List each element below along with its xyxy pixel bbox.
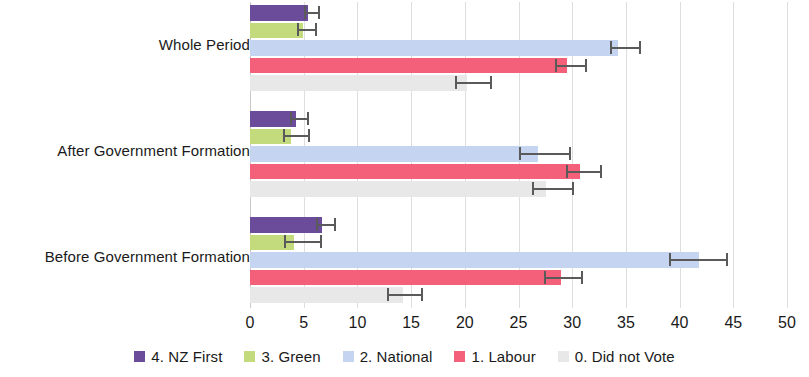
bar xyxy=(250,40,618,56)
x-tick-label: 40 xyxy=(671,314,689,332)
error-bar-line xyxy=(555,65,587,67)
error-bar-cap-high xyxy=(600,165,602,178)
error-bar-cap-low xyxy=(555,59,557,72)
legend-swatch-icon xyxy=(244,351,255,362)
bar xyxy=(250,164,580,180)
legend-item[interactable]: 3. Green xyxy=(244,348,320,365)
error-bar-line xyxy=(316,224,336,226)
error-bar-cap-high xyxy=(334,218,336,231)
error-bar-line xyxy=(455,82,492,84)
x-tick-label: 45 xyxy=(724,314,742,332)
error-bar-cap-high xyxy=(318,6,320,19)
x-tick-label: 20 xyxy=(456,314,474,332)
bar xyxy=(250,287,403,303)
legend-item[interactable]: 4. NZ First xyxy=(134,348,222,365)
error-bar-cap-high xyxy=(320,235,322,248)
error-bar-line xyxy=(544,277,583,279)
error-bar-line xyxy=(283,135,310,137)
bar-row xyxy=(250,251,787,269)
chart-legend: 4. NZ First3. Green2. National1. Labour0… xyxy=(0,348,809,365)
error-bar-cap-low xyxy=(316,218,318,231)
x-tick-label: 15 xyxy=(402,314,420,332)
bar xyxy=(250,270,561,286)
legend-swatch-icon xyxy=(558,351,569,362)
legend-item[interactable]: 0. Did not Vote xyxy=(558,348,675,365)
bar-row xyxy=(250,128,787,146)
bar xyxy=(250,252,699,268)
error-bar-cap-high xyxy=(585,59,587,72)
bar-row xyxy=(250,180,787,198)
legend-label: 1. Labour xyxy=(471,348,535,365)
error-bar-line xyxy=(387,294,422,296)
bar-row xyxy=(250,286,787,304)
x-tick-label: 10 xyxy=(348,314,366,332)
error-bar-line xyxy=(566,171,603,173)
bar xyxy=(250,217,322,233)
x-tick-label: 5 xyxy=(299,314,308,332)
bar-row xyxy=(250,163,787,181)
bar-group xyxy=(250,216,787,304)
legend-item[interactable]: 1. Labour xyxy=(454,348,535,365)
error-bar-line xyxy=(532,188,574,190)
error-bar-cap-low xyxy=(532,182,534,195)
bar-chart: Whole PeriodAfter Government FormationBe… xyxy=(0,0,809,377)
bar-row xyxy=(250,74,787,92)
error-bar-cap-low xyxy=(544,271,546,284)
error-bar-cap-low xyxy=(304,6,306,19)
error-bar-cap-high xyxy=(581,271,583,284)
error-bar-cap-low xyxy=(519,147,521,160)
x-axis: 05101520253035404550 xyxy=(250,310,787,336)
x-tick-label: 35 xyxy=(617,314,635,332)
error-bar-cap-high xyxy=(307,112,309,125)
plot-area xyxy=(250,2,787,308)
bar-row xyxy=(250,110,787,128)
error-bar-line xyxy=(284,241,322,243)
bar-row xyxy=(250,4,787,22)
gridline-50 xyxy=(787,2,788,308)
error-bar-cap-low xyxy=(297,23,299,36)
bar xyxy=(250,181,546,197)
x-tick-label: 25 xyxy=(510,314,528,332)
bar-group xyxy=(250,110,787,198)
bar-row xyxy=(250,39,787,57)
bar-row xyxy=(250,22,787,40)
bar xyxy=(250,23,303,39)
error-bar-cap-low xyxy=(610,41,612,54)
error-bar-line xyxy=(610,47,641,49)
legend-swatch-icon xyxy=(343,351,354,362)
error-bar-cap-high xyxy=(726,253,728,266)
error-bar-cap-high xyxy=(572,182,574,195)
error-bar-cap-high xyxy=(315,23,317,36)
legend-swatch-icon xyxy=(134,351,145,362)
error-bar-cap-low xyxy=(283,129,285,142)
bar-row xyxy=(250,269,787,287)
x-tick-label: 50 xyxy=(778,314,796,332)
error-bar-line xyxy=(669,259,728,261)
category-label: After Government Formation xyxy=(0,142,250,159)
error-bar-cap-low xyxy=(455,76,457,89)
bar xyxy=(250,146,538,162)
error-bar-line xyxy=(519,153,572,155)
error-bar-cap-high xyxy=(569,147,571,160)
bar xyxy=(250,5,308,21)
legend-label: 3. Green xyxy=(261,348,320,365)
bar xyxy=(250,75,467,91)
error-bar-cap-high xyxy=(421,288,423,301)
bar-group xyxy=(250,4,787,92)
legend-item[interactable]: 2. National xyxy=(343,348,433,365)
category-label: Whole Period xyxy=(0,36,250,53)
error-bar-cap-high xyxy=(490,76,492,89)
legend-label: 0. Did not Vote xyxy=(575,348,675,365)
bar-row xyxy=(250,57,787,75)
legend-label: 4. NZ First xyxy=(151,348,222,365)
bar-row xyxy=(250,145,787,163)
error-bar-cap-low xyxy=(387,288,389,301)
legend-swatch-icon xyxy=(454,351,465,362)
error-bar-cap-high xyxy=(308,129,310,142)
error-bar-cap-low xyxy=(284,235,286,248)
category-label: Before Government Formation xyxy=(0,248,250,265)
bar-row xyxy=(250,216,787,234)
x-tick-label: 30 xyxy=(563,314,581,332)
error-bar-cap-high xyxy=(639,41,641,54)
error-bar-cap-low xyxy=(290,112,292,125)
